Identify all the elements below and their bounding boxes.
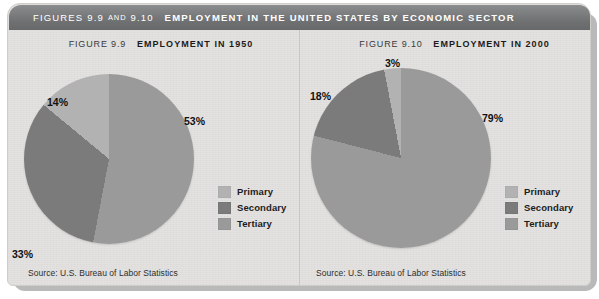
figure-2000-number: FIGURE 9.10: [359, 39, 422, 49]
figure-1950-heading: FIGURE 9.9 EMPLOYMENT IN 1950: [9, 39, 299, 49]
legend-swatch-primary-icon: [505, 186, 518, 198]
legend-1950: Primary Secondary Tertiary: [218, 185, 286, 230]
figure-2000-source: Source: U.S. Bureau of Labor Statistics: [316, 268, 466, 278]
titlebar-conjunction: AND: [108, 13, 127, 22]
titlebar-figures-label: FIGURES: [33, 12, 83, 23]
titlebar-figure-b-number: 9.10: [131, 12, 154, 23]
titlebar-title: EMPLOYMENT IN THE UNITED STATES BY ECONO…: [165, 12, 515, 23]
titlebar-figure-a-number: 9.9: [87, 12, 104, 23]
legend-swatch-tertiary-icon: [505, 218, 518, 230]
pie-label-1950-tertiary: 53%: [184, 115, 205, 127]
legend-label-primary: Primary: [237, 186, 273, 197]
figure-card: FIGURES 9.9 AND 9.10 EMPLOYMENT IN THE U…: [7, 3, 591, 286]
legend-swatch-secondary-icon: [505, 202, 518, 214]
pie-label-2000-primary: 3%: [385, 57, 400, 69]
figure-panels: FIGURE 9.9 EMPLOYMENT IN 1950 14% 53% 33…: [9, 30, 591, 286]
legend-item-primary: Primary: [218, 185, 286, 198]
pie-label-2000-tertiary: 79%: [482, 112, 503, 124]
figure-2000-title: EMPLOYMENT IN 2000: [433, 39, 549, 49]
pie-label-2000-secondary: 18%: [310, 90, 331, 102]
legend-label-tertiary: Tertiary: [237, 218, 272, 229]
figure-card-stage: FIGURES 9.9 AND 9.10 EMPLOYMENT IN THE U…: [0, 0, 599, 299]
legend-item-tertiary: Tertiary: [505, 217, 573, 230]
legend-item-primary: Primary: [505, 185, 573, 198]
legend-label-tertiary: Tertiary: [524, 218, 559, 229]
pie-label-1950-primary: 14%: [47, 96, 68, 108]
legend-swatch-primary-icon: [218, 186, 231, 198]
legend-label-secondary: Secondary: [237, 202, 286, 213]
legend-2000: Primary Secondary Tertiary: [505, 185, 573, 230]
pie-slices-2000: [311, 68, 491, 248]
figure-titlebar-text: FIGURES 9.9 AND 9.10 EMPLOYMENT IN THE U…: [33, 5, 583, 30]
figure-titlebar: FIGURES 9.9 AND 9.10 EMPLOYMENT IN THE U…: [9, 5, 591, 30]
legend-swatch-tertiary-icon: [218, 218, 231, 230]
figure-2000-heading: FIGURE 9.10 EMPLOYMENT IN 2000: [300, 39, 591, 49]
figure-1950-number: FIGURE 9.9: [69, 39, 127, 49]
pie-label-1950-secondary: 33%: [12, 248, 33, 260]
figure-panel-1950: FIGURE 9.9 EMPLOYMENT IN 1950 14% 53% 33…: [9, 30, 299, 286]
legend-swatch-secondary-icon: [218, 202, 231, 214]
legend-item-tertiary: Tertiary: [218, 217, 286, 230]
figure-panel-2000: FIGURE 9.10 EMPLOYMENT IN 2000 3% 18% 79…: [299, 30, 591, 286]
legend-item-secondary: Secondary: [505, 201, 573, 214]
legend-item-secondary: Secondary: [218, 201, 286, 214]
legend-label-secondary: Secondary: [524, 202, 573, 213]
figure-1950-title: EMPLOYMENT IN 1950: [137, 39, 253, 49]
legend-label-primary: Primary: [524, 186, 560, 197]
figure-1950-source: Source: U.S. Bureau of Labor Statistics: [28, 268, 178, 278]
pie-chart-2000: [311, 68, 491, 248]
